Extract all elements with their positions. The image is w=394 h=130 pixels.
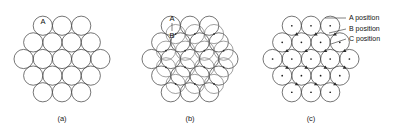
legend-label-a-position: A position bbox=[349, 14, 379, 22]
legend-label-c-position: C position bbox=[349, 35, 380, 43]
panel-a-position-label-a: A bbox=[40, 17, 45, 26]
close-packing-diagram: A (a) A B (b) (c) A position B position … bbox=[0, 0, 394, 130]
panel-b-position-label-b: B bbox=[169, 31, 174, 40]
panel-b-caption: (b) bbox=[185, 114, 195, 123]
legend-label-b-position: B position bbox=[349, 25, 380, 33]
panel-b-position-label-a: A bbox=[169, 14, 174, 23]
panel-a-caption: (a) bbox=[57, 114, 67, 123]
panel-c-caption: (c) bbox=[307, 114, 316, 123]
